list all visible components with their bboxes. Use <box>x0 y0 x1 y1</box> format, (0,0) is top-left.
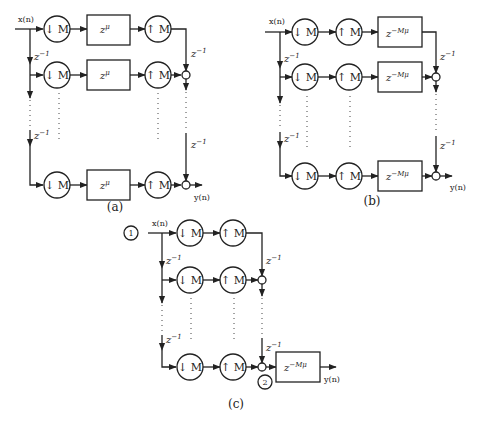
input-label-b: x(n) <box>269 17 285 26</box>
input-label-a: x(n) <box>18 15 34 24</box>
svg-text:↑ M: ↑ M <box>146 179 170 192</box>
sum-node-c-3 <box>258 363 266 371</box>
sum-node-b-3 <box>432 172 440 180</box>
caption-a: (a) <box>107 200 124 214</box>
caption-c: (c) <box>228 397 244 411</box>
svg-text:↓ M: ↓ M <box>45 23 69 36</box>
svg-text:z−1: z−1 <box>265 254 282 266</box>
caption-b: (b) <box>363 194 380 208</box>
output-label-c: y(n) <box>323 375 340 384</box>
sum-node-b-2 <box>432 73 440 81</box>
sum-node-a-3 <box>182 181 190 189</box>
svg-text:↑ M: ↑ M <box>221 274 245 287</box>
delay-label-b-2: z−1 <box>283 132 300 144</box>
delay-label-c-1: z−1 <box>165 254 182 266</box>
delay-label-a-2: z−1 <box>33 129 50 141</box>
output-delay-label-a-2: z−1 <box>190 138 207 150</box>
svg-text:z−1: z−1 <box>439 50 456 62</box>
input-label-c: x(n) <box>152 219 168 228</box>
svg-text:↑ M: ↑ M <box>337 26 361 39</box>
svg-text:↓ M: ↓ M <box>178 361 202 374</box>
delay-chain-a-4 <box>30 146 43 185</box>
output-label-a: y(n) <box>193 193 210 202</box>
svg-text:↓ M: ↓ M <box>293 170 317 183</box>
svg-text:↑ M: ↑ M <box>337 170 361 183</box>
svg-text:z−1: z−1 <box>265 341 282 353</box>
sum-node-a-2 <box>182 71 190 79</box>
svg-text:↓ M: ↓ M <box>293 71 317 84</box>
delay-label-a-1: z−1 <box>33 50 50 62</box>
svg-text:↑ M: ↑ M <box>146 23 170 36</box>
svg-text:↑ M: ↑ M <box>146 69 170 82</box>
multirate-filterbank-figure: x(n) z−1 z−1 ↓ M zμ ↑ M z−1 ↓ M zμ ↑ M <box>0 0 479 429</box>
svg-text:1: 1 <box>128 229 133 238</box>
svg-text:↓ M: ↓ M <box>293 26 317 39</box>
output-label-b: y(n) <box>449 183 466 192</box>
svg-text:↓ M: ↓ M <box>178 274 202 287</box>
delay-label-b-1: z−1 <box>283 52 300 64</box>
output-delay-label-a-1: z−1 <box>190 47 207 59</box>
sum-node-c-2 <box>258 276 266 284</box>
svg-text:↓ M: ↓ M <box>45 69 69 82</box>
panel-a: x(n) z−1 z−1 ↓ M zμ ↑ M z−1 ↓ M zμ ↑ M <box>15 15 210 214</box>
svg-text:↓ M: ↓ M <box>45 179 69 192</box>
panel-b: x(n) z−1 z−1 ↓ M ↑ M z−Mμ z−1 ↓ M ↑ M z−… <box>265 17 466 208</box>
delay-label-c-2: z−1 <box>165 333 182 345</box>
svg-text:2: 2 <box>262 378 267 387</box>
svg-text:z−1: z−1 <box>439 139 456 151</box>
svg-text:↓ M: ↓ M <box>178 227 202 240</box>
svg-text:↑ M: ↑ M <box>337 71 361 84</box>
panel-c: 1 x(n) z−1 z−1 ↓ M ↑ M z−1 ↓ M ↑ M z−1 <box>124 219 340 411</box>
svg-text:↑ M: ↑ M <box>221 227 245 240</box>
svg-text:↑ M: ↑ M <box>221 361 245 374</box>
